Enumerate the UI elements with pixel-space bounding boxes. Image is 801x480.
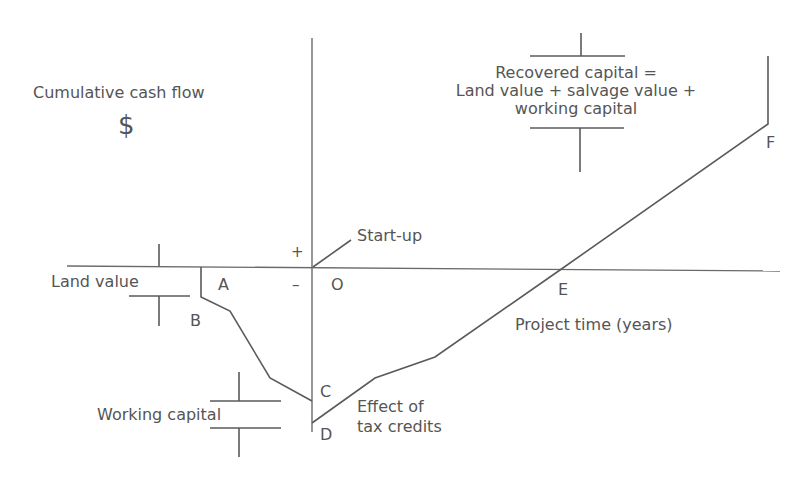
x-axis <box>67 266 780 271</box>
tax-credits-label-line2: tax credits <box>357 417 442 436</box>
y-axis-label: Cumulative cash flow <box>33 83 205 102</box>
dollar-sign-label: $ <box>118 110 135 140</box>
x-axis-label: Project time (years) <box>515 315 673 334</box>
recovered-capital-label-line2: Land value + salvage value + <box>456 81 697 100</box>
recovered-capital-label-line3: working capital <box>515 99 637 118</box>
startup-label: Start-up <box>357 226 422 245</box>
point-label-d: D <box>320 425 332 444</box>
point-label-e: E <box>558 280 568 299</box>
negative-sign: – <box>292 276 300 294</box>
cumulative-cash-flow-diagram: Cumulative cash flow $ + – A B C D O E F… <box>0 0 801 480</box>
working-capital-label: Working capital <box>97 405 221 424</box>
point-label-f: F <box>766 133 775 152</box>
point-label-a: A <box>218 275 229 294</box>
point-label-o: O <box>331 275 344 294</box>
point-label-c: C <box>320 382 331 401</box>
point-label-b: B <box>190 311 201 330</box>
positive-sign: + <box>291 243 304 261</box>
startup-leader-line <box>313 240 351 267</box>
land-value-label: Land value <box>51 272 139 291</box>
tax-credits-label-line1: Effect of <box>357 397 424 416</box>
recovered-capital-label-line1: Recovered capital = <box>495 63 657 82</box>
